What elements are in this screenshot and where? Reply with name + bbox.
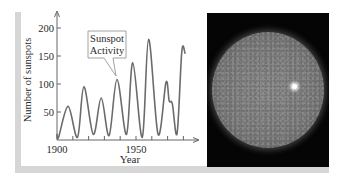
sunspot-activity-callout: Sunspot Activity <box>88 31 126 76</box>
y-axis-label: Number of sunspots <box>22 38 33 123</box>
x-axis-label: Year <box>120 153 141 165</box>
sun-photo <box>207 13 329 167</box>
callout-line-1: Sunspot <box>90 33 124 44</box>
sun-bright-spot <box>292 84 297 89</box>
y-tick-label: 200 <box>38 23 54 34</box>
callout-line-2: Activity <box>90 45 125 56</box>
sun-surface-texture <box>212 32 324 148</box>
sunspot-chart: 5010015020019001950 Sunspot Activity Yea… <box>0 0 210 170</box>
y-tick-label: 50 <box>44 107 55 118</box>
y-tick-label: 150 <box>38 51 54 62</box>
x-tick-label: 1900 <box>47 144 68 155</box>
y-tick-label: 100 <box>38 79 54 90</box>
sun-disc <box>212 32 324 148</box>
